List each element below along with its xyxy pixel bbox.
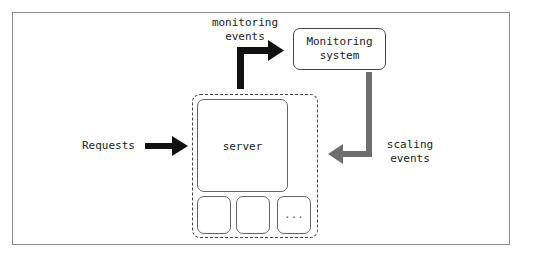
monitoring-events-arrow xyxy=(237,40,284,89)
scaling-events-label: scaling events xyxy=(380,138,440,166)
instance-box-more: ... xyxy=(277,196,311,234)
monitoring-system-node: Monitoring system xyxy=(293,28,386,70)
scaling-events-arrow xyxy=(328,72,372,164)
requests-arrow xyxy=(145,136,188,156)
server-node: server xyxy=(197,99,288,192)
monitoring-events-label: monitoring events xyxy=(205,16,285,44)
requests-label: Requests xyxy=(82,139,135,153)
monitoring-system-label: Monitoring system xyxy=(294,35,385,63)
instance-box-2 xyxy=(236,196,270,234)
instance-box-1 xyxy=(197,196,231,234)
ellipsis-label: ... xyxy=(278,208,310,222)
server-label: server xyxy=(198,140,287,154)
